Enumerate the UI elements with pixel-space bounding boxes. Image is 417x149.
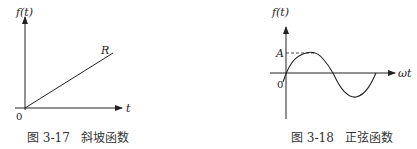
- ramp-figure: f(t) t R 0: [15, 6, 131, 122]
- ramp-y-label: f(t): [15, 6, 33, 19]
- ramp-caption: 图 3-17 斜坡函数: [27, 128, 129, 145]
- amplitude-label: A: [275, 47, 284, 60]
- ramp-x-label: t: [126, 102, 131, 115]
- ramp-curve-label: R: [100, 44, 109, 57]
- sine-figure: f(t) ωt A 0: [270, 6, 412, 119]
- sine-curve: [283, 52, 376, 97]
- ramp-origin-label: 0: [16, 111, 22, 122]
- sine-y-label: f(t): [271, 6, 289, 19]
- sine-origin-label: 0: [277, 79, 283, 90]
- sine-x-label: ωt: [398, 67, 412, 80]
- sine-caption: 图 3-18 正弦函数: [291, 128, 393, 145]
- ramp-line: [25, 53, 113, 108]
- diagram-canvas: f(t) t R 0 f(t) ωt A 0: [0, 0, 417, 149]
